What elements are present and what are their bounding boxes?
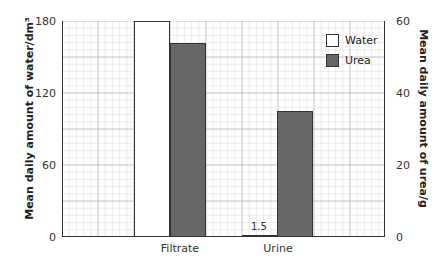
water-swatch	[326, 34, 339, 47]
y-axis-right-label: Mean daily amount of urea/g	[417, 14, 430, 224]
legend-item-urea: Urea	[326, 50, 378, 70]
legend: Water Urea	[326, 30, 378, 70]
bar-filtrate-urea	[170, 43, 206, 237]
y-right-tick-0: 0	[396, 231, 403, 244]
legend-label-urea: Urea	[345, 54, 371, 67]
bar-urine-water	[242, 235, 277, 237]
y-axis-left-label: Mean daily amount of water/dm³	[23, 14, 36, 224]
x-category-urine: Urine	[238, 242, 318, 255]
bar-filtrate-water	[134, 21, 170, 237]
y-left-tick-180: 180	[35, 15, 56, 28]
y-left-tick-0: 0	[49, 231, 56, 244]
y-left-tick-120: 120	[35, 87, 56, 100]
legend-label-water: Water	[345, 34, 378, 47]
y-right-tick-40: 40	[396, 87, 410, 100]
x-category-filtrate: Filtrate	[140, 242, 220, 255]
bar-urine-urea	[277, 111, 313, 237]
urea-swatch	[326, 54, 339, 67]
y-right-tick-20: 20	[396, 159, 410, 172]
urine-water-value-label: 1.5	[251, 221, 267, 232]
y-right-tick-60: 60	[396, 15, 410, 28]
legend-item-water: Water	[326, 30, 378, 50]
y-left-tick-60: 60	[42, 159, 56, 172]
